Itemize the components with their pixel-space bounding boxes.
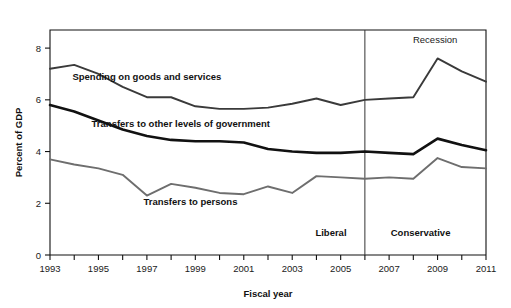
y-tick-label: 6 xyxy=(36,94,41,105)
plot-frame xyxy=(50,30,486,255)
x-tick-label: 2011 xyxy=(476,263,496,274)
chart-labels: Spending on goods and servicesTransfers … xyxy=(13,34,457,299)
y-axis-title: Percent of GDP xyxy=(13,107,24,177)
series-label-1: Transfers to other levels of government xyxy=(92,118,271,129)
y-tick-label: 8 xyxy=(36,43,41,54)
y-tick-label: 0 xyxy=(36,250,41,261)
x-tick-label: 1993 xyxy=(39,263,60,274)
y-tick-label: 2 xyxy=(36,198,41,209)
y-tick-label: 4 xyxy=(36,146,41,157)
x-axis-title: Fiscal year xyxy=(243,288,292,299)
x-tick-label: 1997 xyxy=(136,263,157,274)
conservative-era-label: Conservative xyxy=(391,227,451,238)
series-label-0: Spending on goods and services xyxy=(72,71,221,82)
line-chart-svg: 0246819931995199719992001200320052007200… xyxy=(0,0,511,308)
x-tick-label: 2005 xyxy=(330,263,351,274)
chart-figure: 0246819931995199719992001200320052007200… xyxy=(0,0,511,308)
x-tick-label: 2009 xyxy=(427,263,448,274)
series-line-1 xyxy=(50,105,486,154)
series-line-0 xyxy=(50,58,486,108)
recession-annotation: Recession xyxy=(413,34,457,45)
x-tick-label: 1999 xyxy=(185,263,206,274)
x-tick-label: 2007 xyxy=(379,263,400,274)
series-line-2 xyxy=(50,158,486,196)
x-tick-label: 1995 xyxy=(88,263,109,274)
liberal-era-label: Liberal xyxy=(315,227,346,238)
x-tick-label: 2003 xyxy=(282,263,303,274)
x-tick-label: 2001 xyxy=(233,263,254,274)
series-label-2: Transfers to persons xyxy=(143,196,237,207)
